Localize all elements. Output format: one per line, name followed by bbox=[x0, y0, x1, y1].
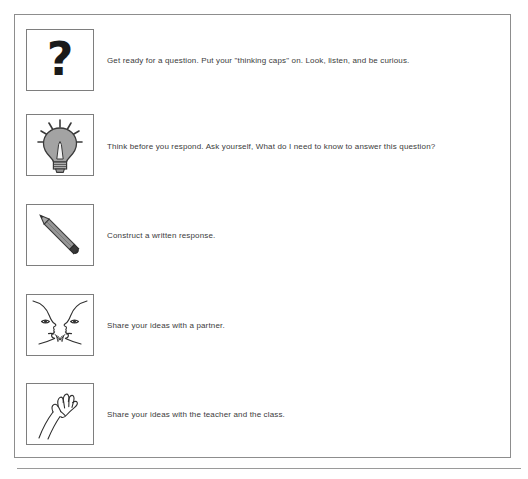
bottom-separator-rule bbox=[17, 468, 521, 469]
icon-cell-pencil bbox=[26, 204, 94, 266]
row-text-question: Get ready for a question. Put your "thin… bbox=[107, 55, 502, 66]
row-text-class: Share your ideas with the teacher and th… bbox=[107, 409, 502, 420]
icon-cell-hand bbox=[26, 383, 94, 445]
row-text-partner: Share your ideas with a partner. bbox=[107, 320, 502, 331]
icon-cell-lightbulb bbox=[26, 114, 94, 176]
icon-cell-faces bbox=[26, 294, 94, 356]
pencil-icon bbox=[27, 205, 93, 265]
row-text-think: Think before you respond. Ask yourself, … bbox=[107, 141, 502, 152]
row-text-write: Construct a written response. bbox=[107, 230, 502, 241]
icon-cell-question: ? bbox=[26, 29, 94, 91]
question-mark-icon: ? bbox=[27, 30, 93, 90]
raised-hand-icon bbox=[27, 384, 93, 444]
document-frame: ? Get ready for a question. Put your "th… bbox=[14, 14, 511, 458]
talking-faces-icon bbox=[27, 295, 93, 355]
lightbulb-icon bbox=[27, 115, 93, 175]
